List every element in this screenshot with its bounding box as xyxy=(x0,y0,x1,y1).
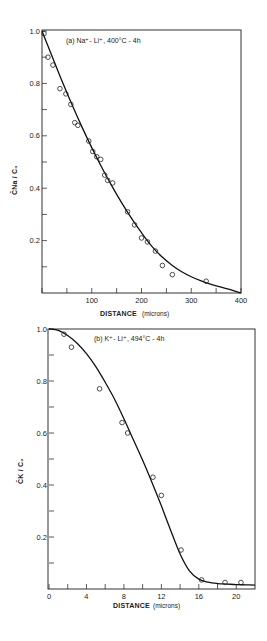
chart-a-y-axis-title: C̄Na / C₀ xyxy=(10,165,18,195)
data-point-marker xyxy=(51,63,56,68)
data-point-marker xyxy=(73,120,78,125)
y-tick-label: 1.0 xyxy=(30,27,40,36)
chart-b-data-points xyxy=(62,332,244,585)
chart-b-annotation: (b) K⁺- Li⁺, 494°C - 4h xyxy=(94,335,164,343)
x-tick-label: 200 xyxy=(135,296,148,305)
x-tick-label: 4 xyxy=(84,592,88,601)
y-tick-label: 0.6 xyxy=(30,131,40,140)
chart-a-fit-curve xyxy=(42,31,241,293)
chart-a-frame xyxy=(42,30,241,293)
x-tick-label: 8 xyxy=(122,592,126,601)
x-tick-label: 20 xyxy=(232,592,240,601)
data-point-marker xyxy=(120,420,125,425)
data-point-marker xyxy=(125,431,130,436)
chart-b-fit-curve xyxy=(49,329,255,585)
data-point-marker xyxy=(179,548,184,553)
x-tick-label: 400 xyxy=(235,296,248,305)
y-tick-label: 0.8 xyxy=(30,79,40,88)
x-tick-label: 100 xyxy=(85,296,98,305)
chart-a-y-ticks: 0.20.40.60.81.0 xyxy=(30,27,47,267)
x-tick-label: 300 xyxy=(185,296,198,305)
y-tick-label: 0.4 xyxy=(30,184,40,193)
data-point-marker xyxy=(69,345,74,350)
data-point-marker xyxy=(110,181,115,186)
data-point-marker xyxy=(98,157,103,162)
data-point-marker xyxy=(170,272,175,277)
chart-a: 100200300400 0.20.40.60.81.0 (a) Na⁺- Li… xyxy=(10,27,247,319)
data-point-marker xyxy=(160,263,165,268)
x-tick-label: 0 xyxy=(47,592,51,601)
chart-b-y-axis-title: C̄K / C₀ xyxy=(16,458,24,484)
figure-canvas: 100200300400 0.20.40.60.81.0 (a) Na⁺- Li… xyxy=(0,0,267,641)
data-point-marker xyxy=(139,236,144,241)
chart-a-annotation: (a) Na⁺- Li⁺, 400°C - 4h xyxy=(66,37,141,45)
chart-b: 048121620 0.20.40.60.81.0 (b) K⁺- Li⁺, 4… xyxy=(16,325,255,611)
chart-a-x-axis-unit: (microns) xyxy=(142,310,169,318)
chart-a-x-axis-title: DISTANCE xyxy=(100,310,137,317)
chart-b-frame xyxy=(48,329,255,589)
data-point-marker xyxy=(97,387,102,392)
chart-a-x-ticks: 100200300400 xyxy=(42,288,247,305)
chart-b-y-ticks: 0.20.40.60.81.0 xyxy=(37,325,54,564)
y-tick-label: 0.2 xyxy=(37,533,47,542)
x-tick-label: 12 xyxy=(157,592,165,601)
x-tick-label: 16 xyxy=(195,592,203,601)
chart-b-x-ticks: 048121620 xyxy=(47,584,241,601)
y-tick-label: 0.2 xyxy=(30,236,40,245)
y-tick-label: 0.4 xyxy=(37,481,47,490)
chart-a-data-points xyxy=(42,31,209,283)
data-point-marker xyxy=(58,86,63,91)
data-point-marker xyxy=(159,493,164,498)
y-tick-label: 1.0 xyxy=(37,325,47,334)
chart-b-x-axis-title: DISTANCE xyxy=(113,602,150,609)
data-point-marker xyxy=(76,123,81,128)
data-point-marker xyxy=(151,475,156,480)
y-tick-label: 0.8 xyxy=(37,377,47,386)
chart-b-x-axis-unit: (microns) xyxy=(153,602,180,610)
y-tick-label: 0.6 xyxy=(37,429,47,438)
